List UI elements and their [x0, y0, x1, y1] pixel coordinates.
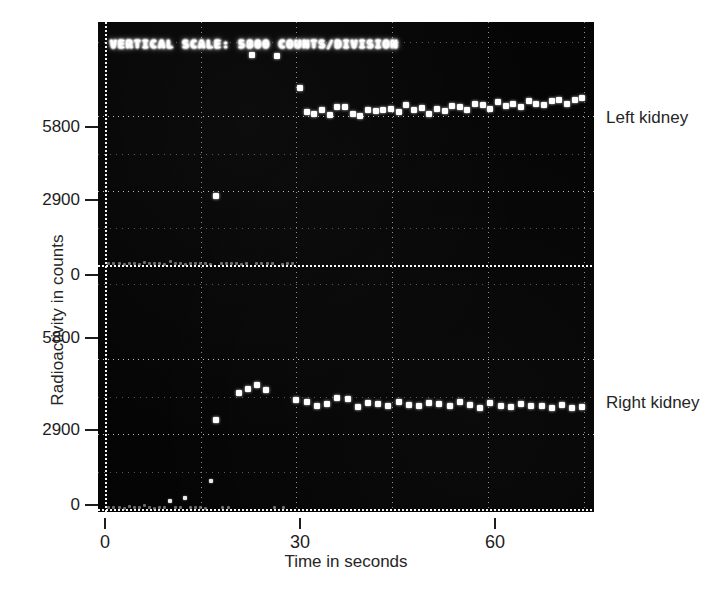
data-point [334, 104, 340, 110]
data-point [467, 402, 473, 408]
data-point [373, 108, 379, 114]
data-point [350, 111, 356, 117]
data-point [204, 507, 207, 510]
gridline-vertical [105, 22, 107, 512]
data-point [249, 52, 255, 58]
data-point [457, 399, 463, 405]
data-point [449, 103, 455, 109]
data-point [510, 101, 516, 107]
gridline-horizontal [98, 42, 594, 43]
data-point [148, 506, 151, 509]
data-point [123, 263, 126, 266]
data-point [357, 113, 363, 119]
data-point [411, 107, 417, 113]
data-point [189, 506, 192, 509]
data-point [579, 95, 585, 101]
x-tick-30: 30 [270, 518, 330, 553]
data-point [209, 479, 213, 483]
gridline-horizontal [98, 434, 594, 435]
x-tick-60: 60 [465, 518, 525, 553]
data-point [168, 499, 172, 503]
data-point [380, 107, 386, 113]
data-point [271, 262, 274, 265]
data-point [220, 262, 223, 265]
gridline-vertical [392, 22, 393, 512]
data-point [457, 104, 463, 110]
data-point [327, 112, 333, 118]
data-point [174, 262, 177, 265]
data-point [436, 401, 442, 407]
data-point [480, 102, 486, 108]
tick-stem [494, 518, 496, 529]
tick-stem [104, 518, 106, 529]
data-point [221, 506, 224, 509]
data-point [297, 85, 303, 91]
tick-dash [85, 337, 98, 339]
data-point [138, 263, 141, 266]
data-point [184, 263, 187, 266]
data-point [169, 260, 172, 263]
data-point [365, 400, 371, 406]
data-point [304, 109, 310, 115]
data-point [549, 405, 555, 411]
data-point [406, 402, 412, 408]
y-tick-upper-0: 0 [24, 265, 98, 285]
data-point [133, 506, 136, 509]
data-point [245, 262, 248, 265]
data-point [518, 401, 524, 407]
data-point [365, 107, 371, 113]
data-point [118, 506, 121, 509]
tick-stem [299, 518, 301, 529]
data-point [464, 107, 470, 113]
data-point [143, 261, 146, 264]
gridline-vertical [488, 22, 489, 512]
data-point [334, 395, 340, 401]
data-point [487, 106, 493, 112]
data-point [281, 263, 284, 266]
data-point [396, 399, 402, 405]
crt-header-text: VERTICAL SCALE: 5800 COUNTS/DIVISION [110, 38, 399, 51]
data-point [533, 101, 539, 107]
data-point [266, 262, 269, 265]
data-point [183, 496, 187, 500]
data-point [355, 404, 361, 410]
data-point [403, 102, 409, 108]
gridline-horizontal [98, 154, 594, 155]
gridline-vertical [296, 22, 297, 512]
data-point [388, 106, 394, 112]
data-point [179, 262, 182, 265]
data-point [385, 403, 391, 409]
data-point [559, 402, 565, 408]
y-tick-lower-2900: 2900 [24, 420, 98, 440]
data-point [209, 263, 212, 266]
gridline-horizontal [98, 265, 594, 267]
data-point [324, 401, 330, 407]
tick-dash [85, 274, 98, 276]
crt-plot-panel: VERTICAL SCALE: 5800 COUNTS/DIVISION [98, 22, 594, 512]
data-point [572, 97, 578, 103]
data-point [539, 403, 545, 409]
y-axis-tick-labels: 5800 2900 0 5800 2900 0 [0, 0, 98, 592]
data-point [569, 405, 575, 411]
data-point [342, 104, 348, 110]
trace-label-right-kidney: Right kidney [606, 393, 700, 413]
data-point [230, 262, 233, 265]
data-point [254, 382, 260, 388]
data-point [291, 262, 294, 265]
trace-label-left-kidney: Left kidney [606, 108, 688, 128]
data-point [240, 263, 243, 266]
data-point [213, 417, 219, 423]
data-point [416, 403, 422, 409]
data-point [503, 103, 509, 109]
data-point [118, 262, 121, 265]
data-point [556, 97, 562, 103]
data-point [508, 404, 514, 410]
data-point [263, 387, 269, 393]
data-point [319, 107, 325, 113]
gridline-horizontal [98, 359, 594, 360]
data-point [194, 506, 197, 509]
tick-dash [85, 504, 98, 506]
data-point [213, 193, 219, 199]
data-point [447, 403, 453, 409]
data-point [579, 404, 585, 410]
